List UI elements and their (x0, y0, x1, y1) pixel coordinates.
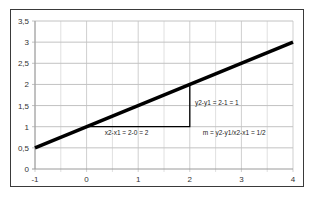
y-tick-label: 1,5 (18, 102, 30, 111)
y-tick-label: 3 (25, 38, 30, 47)
x-tick-label: 2 (188, 175, 193, 184)
x-tick-label: -1 (31, 175, 39, 184)
y-tick-label: 0,5 (18, 144, 30, 153)
annotation-label: y2-y1 = 2-1 = 1 (195, 99, 239, 107)
x-tick-label: 4 (291, 175, 296, 184)
x-axis-ticks: -101234 (31, 175, 295, 184)
annotation-label: m = y2-y1/x2-x1 = 1/2 (203, 129, 266, 137)
y-tick-label: 0 (25, 165, 30, 174)
annotation-label: x2-x1 = 2-0 = 2 (105, 129, 149, 136)
y-tick-label: 1 (25, 123, 30, 132)
y-tick-label: 2 (25, 80, 30, 89)
y-tick-label: 3,5 (18, 17, 30, 26)
x-tick-label: 0 (84, 175, 89, 184)
x-tick-label: 3 (239, 175, 244, 184)
line-chart: 00,511,522,533,5 -101234 x2-x1 = 2-0 = 2… (0, 0, 313, 197)
x-tick-label: 1 (136, 175, 141, 184)
y-axis-ticks: 00,511,522,533,5 (18, 17, 30, 174)
y-tick-label: 2,5 (18, 59, 30, 68)
